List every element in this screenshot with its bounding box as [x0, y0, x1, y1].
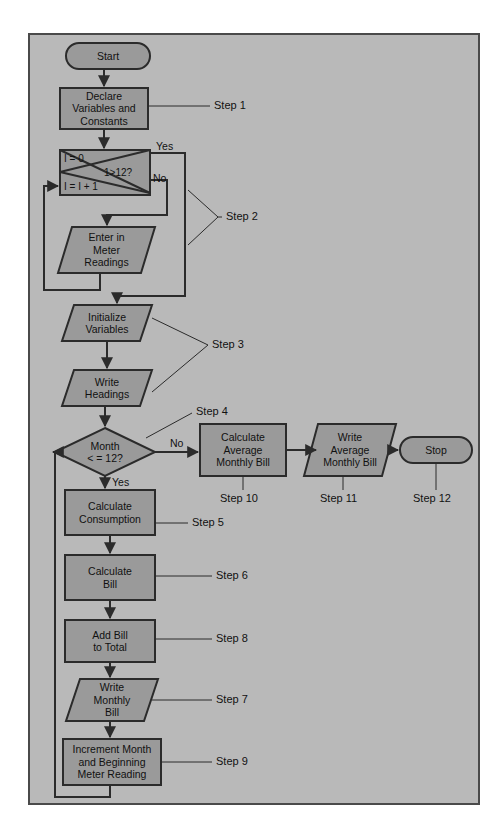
- node-increment: [63, 739, 161, 785]
- step-label-step5: Step 5: [192, 516, 224, 529]
- step-label-step12: Step 12: [413, 492, 451, 505]
- flowchart-page: Start Declare Variables and Constants I …: [0, 0, 504, 831]
- edge-label-loop-yes: Yes: [156, 140, 173, 152]
- edge-label-loop-no: No: [153, 172, 166, 184]
- loop-init-label: I = 0: [64, 153, 84, 164]
- edge-label-month-no: No: [170, 437, 183, 449]
- node-add-bill: [65, 620, 155, 662]
- step-label-step2: Step 2: [226, 210, 258, 223]
- step-label-step11: Step 11: [320, 492, 357, 505]
- step-label-step9: Step 9: [216, 755, 248, 768]
- step-label-step8: Step 8: [216, 632, 248, 645]
- node-calc-consumption: [65, 490, 155, 535]
- node-write-headings: [62, 370, 152, 406]
- flowchart-canvas: [0, 0, 504, 831]
- node-write-avg: [304, 424, 396, 476]
- node-init-vars: [62, 305, 152, 341]
- node-month-decision: [55, 428, 155, 476]
- loop-condition-label: 1>12?: [104, 167, 132, 178]
- step-label-step6: Step 6: [216, 569, 248, 582]
- leader-step3: [152, 318, 208, 392]
- edge-label-month-yes: Yes: [112, 476, 129, 488]
- leader-step2: [188, 190, 218, 245]
- node-start: [66, 43, 150, 69]
- node-write-monthly-bill: [66, 679, 158, 721]
- loop-increment-label: I = I + 1: [64, 181, 98, 192]
- node-declare: [60, 88, 148, 129]
- node-stop: [400, 437, 472, 463]
- leader-step4: [146, 413, 192, 438]
- node-calc-avg: [200, 424, 286, 476]
- node-enter-meter: [58, 227, 155, 273]
- step-label-step1: Step 1: [214, 99, 246, 112]
- step-label-step3: Step 3: [212, 338, 244, 351]
- step-label-step4: Step 4: [196, 405, 228, 418]
- node-calc-bill: [65, 555, 155, 600]
- step-label-step7: Step 7: [216, 693, 248, 706]
- step-label-step10: Step 10: [220, 492, 258, 505]
